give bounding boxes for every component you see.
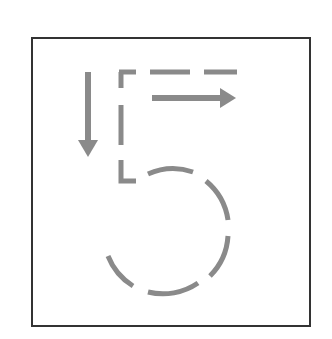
digit-five-dashed-stroke: [108, 72, 237, 294]
right-arrow-icon: [152, 88, 236, 108]
down-arrow-icon: [78, 72, 98, 157]
digit-five-tracing: [0, 0, 332, 339]
